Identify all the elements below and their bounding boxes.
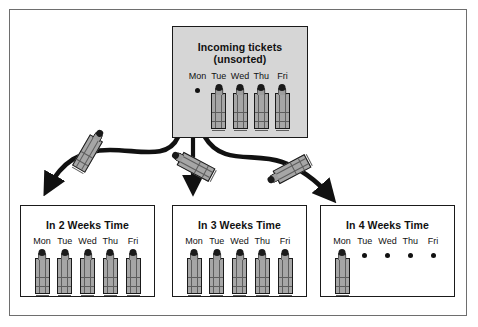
day-column-fri: Fri [272, 71, 293, 130]
spike-body-icon [278, 258, 293, 294]
spike-knob-icon [215, 84, 222, 91]
week-box-2: In 2 Weeks Time MonTueWedThuFri [20, 205, 155, 297]
spike-knob-icon [279, 84, 286, 91]
week-box-3-days-row: MonTueWedThuFri [173, 236, 306, 297]
incoming-tickets-box: Incoming tickets (unsorted) MonTueWedThu… [172, 26, 308, 138]
empty-dot-icon [362, 253, 367, 258]
empty-slot-marker [354, 249, 376, 297]
day-label: Mon [185, 236, 203, 246]
week-box-4-days-row: MonTueWedThuFri [321, 236, 454, 297]
day-column-thu: Thu [251, 71, 272, 130]
day-label: Thu [254, 236, 270, 246]
day-column-tue: Tue [354, 236, 376, 297]
day-label: Mon [333, 236, 351, 246]
spike-knob-icon [258, 84, 265, 91]
empty-dot-icon [385, 253, 390, 258]
day-column-fri: Fri [274, 236, 296, 297]
ticket-stack [251, 249, 273, 297]
day-label: Thu [402, 236, 418, 246]
day-label: Tue [57, 236, 72, 246]
spike-body-icon [80, 258, 95, 294]
day-column-thu: Thu [99, 236, 121, 297]
day-column-wed: Wed [377, 236, 399, 297]
spike-knob-icon [130, 249, 137, 256]
spike-knob-icon [84, 249, 91, 256]
ticket-stack [183, 249, 205, 297]
day-label: Wed [78, 236, 96, 246]
empty-slot-marker [399, 249, 421, 297]
ticket-stack [31, 249, 53, 297]
empty-dot-icon [431, 253, 436, 258]
ticket-stack [331, 249, 353, 297]
day-label: Fri [280, 236, 291, 246]
day-label: Fri [128, 236, 139, 246]
day-column-fri: Fri [422, 236, 444, 297]
day-column-mon: Mon [331, 236, 353, 297]
empty-slot-marker [377, 249, 399, 297]
week-box-2-title: In 2 Weeks Time [21, 219, 154, 231]
day-label: Thu [253, 71, 269, 81]
day-column-wed: Wed [229, 236, 251, 297]
day-label: Tue [211, 71, 226, 81]
day-column-thu: Thu [251, 236, 273, 297]
day-label: Mon [33, 236, 51, 246]
spike-knob-icon [213, 249, 220, 256]
ticket-stack [229, 84, 250, 130]
ticket-stack [208, 84, 229, 130]
ticket-stack [99, 249, 121, 297]
day-label: Thu [102, 236, 118, 246]
spike-body-icon [335, 258, 350, 294]
spike-knob-icon [107, 249, 114, 256]
empty-dot-icon [408, 253, 413, 258]
day-label: Mon [189, 71, 207, 81]
diagram-canvas: Incoming tickets (unsorted) MonTueWedThu… [0, 0, 478, 327]
spike-body-icon [233, 93, 248, 129]
week-box-4: In 4 Weeks Time MonTueWedThuFri [320, 205, 455, 297]
spike-body-icon [103, 258, 118, 294]
day-label: Wed [231, 71, 249, 81]
day-label: Fri [428, 236, 439, 246]
spike-knob-icon [237, 84, 244, 91]
incoming-tickets-title: Incoming tickets (unsorted) [173, 41, 307, 65]
week-box-3: In 3 Weeks Time MonTueWedThuFri [172, 205, 307, 297]
ticket-stack [54, 249, 76, 297]
week-box-4-title: In 4 Weeks Time [321, 219, 454, 231]
spike-body-icon [254, 93, 269, 129]
empty-slot-marker [422, 249, 444, 297]
day-label: Wed [230, 236, 248, 246]
day-column-thu: Thu [399, 236, 421, 297]
day-column-wed: Wed [77, 236, 99, 297]
spike-body-icon [57, 258, 72, 294]
empty-slot-marker [187, 84, 208, 130]
day-label: Fri [277, 71, 288, 81]
day-column-mon: Mon [187, 71, 208, 130]
ticket-stack [229, 249, 251, 297]
spike-body-icon [275, 93, 290, 129]
spike-knob-icon [259, 249, 266, 256]
day-label: Wed [378, 236, 396, 246]
spike-body-icon [187, 258, 202, 294]
day-label: Tue [357, 236, 372, 246]
empty-dot-icon [195, 88, 200, 93]
day-label: Tue [209, 236, 224, 246]
spike-body-icon [255, 258, 270, 294]
ticket-stack [274, 249, 296, 297]
spike-knob-icon [339, 249, 346, 256]
incoming-days-row: MonTueWedThuFri [173, 71, 307, 130]
spike-body-icon [35, 258, 50, 294]
spike-knob-icon [61, 249, 68, 256]
ticket-stack [272, 84, 293, 130]
spike-knob-icon [282, 249, 289, 256]
day-column-tue: Tue [208, 71, 229, 130]
spike-body-icon [126, 258, 141, 294]
spike-body-icon [211, 93, 226, 129]
week-box-3-title: In 3 Weeks Time [173, 219, 306, 231]
spike-knob-icon [39, 249, 46, 256]
spike-body-icon [232, 258, 247, 294]
day-column-mon: Mon [183, 236, 205, 297]
spike-knob-icon [236, 249, 243, 256]
ticket-stack [77, 249, 99, 297]
week-box-2-days-row: MonTueWedThuFri [21, 236, 154, 297]
day-column-wed: Wed [229, 71, 250, 130]
spike-knob-icon [191, 249, 198, 256]
